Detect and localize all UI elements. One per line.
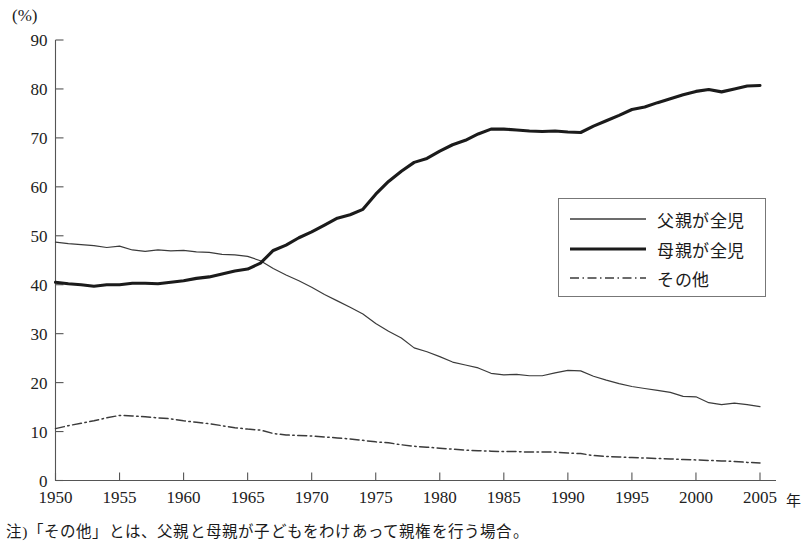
x-tick-label: 2000 [679,488,713,507]
x-tick-label: 1965 [231,488,265,507]
legend-item-other: その他 [569,263,710,293]
y-axis-ticks: 0102030405060708090 [31,31,64,491]
series-line-other [56,415,761,462]
x-tick-label: 1980 [423,488,457,507]
x-tick-label: 1995 [615,488,649,507]
chart-legend: 父親が全児 母親が全児 その他 [558,198,766,297]
y-tick-label: 20 [31,374,48,393]
x-tick-label: 1990 [551,488,585,507]
chart-footnote: 注)「その他」とは、父親と母親が子どもをわけあって親権を行う場合。 [6,519,529,541]
legend-item-father: 父親が全児 [569,204,745,234]
x-tick-label: 1955 [103,488,137,507]
legend-label-other: その他 [657,266,710,291]
x-tick-label: 2005 [743,488,777,507]
x-tick-label: 1970 [295,488,329,507]
x-tick-label: 1950 [39,488,73,507]
x-tick-label: 1985 [487,488,521,507]
x-axis-unit-label: 年 [786,489,801,510]
y-tick-label: 80 [31,80,48,99]
y-tick-label: 60 [31,178,48,197]
legend-swatch-dash-dot-icon [569,271,647,285]
y-tick-label: 40 [31,276,48,295]
legend-label-mother: 母親が全児 [657,237,745,262]
legend-swatch-thick-solid-icon [569,242,647,256]
legend-label-father: 父親が全児 [657,207,745,232]
legend-swatch-thin-solid-icon [569,212,647,226]
legend-item-mother: 母親が全児 [569,234,745,264]
x-tick-label: 1975 [359,488,393,507]
y-tick-label: 50 [31,227,48,246]
y-tick-label: 10 [31,423,48,442]
x-axis-ticks: 1950195519601965197019751980198519901995… [39,473,778,507]
y-tick-label: 70 [31,129,48,148]
y-tick-label: 30 [31,325,48,344]
x-tick-label: 1960 [167,488,201,507]
y-tick-label: 90 [31,31,48,50]
chart-page: (%) 0102030405060708090 1950195519601965… [0,0,807,546]
